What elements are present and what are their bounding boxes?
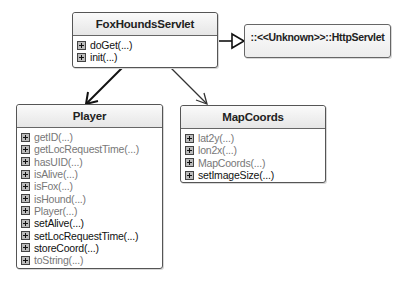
method-item[interactable]: MapCoords(...) [185, 157, 325, 169]
method-label: doGet(...) [90, 39, 132, 51]
method-item[interactable]: setAlive(...) [21, 217, 162, 229]
method-item[interactable]: Player(...) [21, 205, 162, 217]
association-line-mapcoords [170, 67, 206, 103]
class-foxhoundsservlet[interactable]: FoxHoundsServlet doGet(...) init(...) [72, 12, 218, 68]
expander-plus-icon[interactable] [77, 53, 86, 62]
method-label: hasUID(...) [34, 156, 83, 168]
method-list: getID(...) getLocRequestTime(...) hasUID… [17, 128, 162, 266]
method-item[interactable]: init(...) [77, 51, 217, 63]
class-name: ::<<Unknown>>::HttpServlet [251, 31, 385, 43]
method-label: setImageSize(...) [198, 169, 274, 181]
class-player[interactable]: Player getID(...) getLocRequestTime(...)… [16, 104, 163, 269]
expander-plus-icon[interactable] [21, 243, 30, 252]
method-item[interactable]: setImageSize(...) [185, 169, 325, 181]
expander-plus-icon[interactable] [185, 146, 194, 155]
method-item[interactable]: getLocRequestTime(...) [21, 143, 162, 155]
expander-plus-icon[interactable] [21, 170, 30, 179]
method-item[interactable]: isAlive(...) [21, 168, 162, 180]
method-list: lat2y(...) lon2x(...) MapCoords(...) set… [181, 129, 325, 181]
expander-plus-icon[interactable] [21, 182, 30, 191]
expander-plus-icon[interactable] [185, 158, 194, 167]
method-label: isFox(...) [34, 180, 73, 192]
method-label: getID(...) [34, 131, 73, 143]
method-item[interactable]: lat2y(...) [185, 132, 325, 144]
method-label: getLocRequestTime(...) [34, 143, 139, 155]
expander-plus-icon[interactable] [21, 206, 30, 215]
method-item[interactable]: doGet(...) [77, 39, 217, 51]
class-name: FoxHoundsServlet [73, 13, 217, 36]
method-label: toString(...) [34, 254, 83, 266]
method-label: isAlive(...) [34, 168, 78, 180]
class-name: Player [17, 105, 162, 128]
association-line-player [87, 67, 123, 103]
expander-plus-icon[interactable] [185, 134, 194, 143]
class-name: MapCoords [181, 106, 325, 129]
method-item[interactable]: toString(...) [21, 254, 162, 266]
method-label: init(...) [90, 51, 117, 63]
method-item[interactable]: isFox(...) [21, 180, 162, 192]
class-mapcoords[interactable]: MapCoords lat2y(...) lon2x(...) MapCoord… [180, 105, 326, 183]
method-label: storeCoord(...) [34, 242, 99, 254]
expander-plus-icon[interactable] [185, 171, 194, 180]
method-item[interactable]: getID(...) [21, 131, 162, 143]
expander-plus-icon[interactable] [21, 133, 30, 142]
expander-plus-icon[interactable] [21, 145, 30, 154]
expander-plus-icon[interactable] [21, 157, 30, 166]
generalization-arrowhead-icon [232, 34, 244, 48]
method-item[interactable]: hasUID(...) [21, 156, 162, 168]
method-label: lon2x(...) [198, 144, 237, 156]
method-item[interactable]: setLocRequestTime(...) [21, 229, 162, 241]
method-label: lat2y(...) [198, 132, 234, 144]
method-item[interactable]: storeCoord(...) [21, 242, 162, 254]
method-label: setLocRequestTime(...) [34, 230, 138, 242]
expander-plus-icon[interactable] [21, 256, 30, 265]
method-list: doGet(...) init(...) [73, 36, 217, 64]
method-item[interactable]: isHound(...) [21, 192, 162, 204]
method-label: setAlive(...) [34, 217, 84, 229]
expander-plus-icon[interactable] [77, 41, 86, 50]
method-label: isHound(...) [34, 193, 86, 205]
method-item[interactable]: lon2x(...) [185, 144, 325, 156]
expander-plus-icon[interactable] [21, 194, 30, 203]
class-httpservlet[interactable]: ::<<Unknown>>::HttpServlet [244, 24, 391, 58]
method-label: Player(...) [34, 205, 77, 217]
expander-plus-icon[interactable] [21, 219, 30, 228]
method-label: MapCoords(...) [198, 157, 265, 169]
expander-plus-icon[interactable] [21, 231, 30, 240]
